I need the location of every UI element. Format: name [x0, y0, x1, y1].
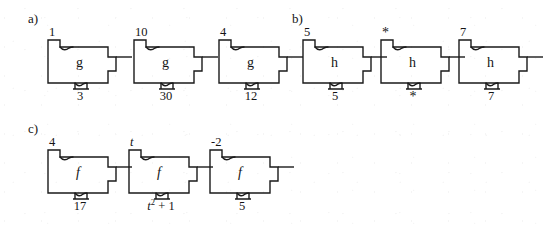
machine-input-value: 5	[304, 26, 310, 39]
machine-input-value: 10	[135, 26, 148, 39]
machine-input-value: 4	[49, 136, 55, 149]
machine-function-label: g	[162, 56, 169, 70]
machine-input-value: 7	[460, 26, 466, 39]
machine-output-value: t2 + 1	[147, 200, 174, 213]
machine-function-label: g	[247, 56, 254, 70]
machine-output-value: 30	[160, 90, 173, 103]
machine-function-label: g	[76, 56, 83, 70]
machine-output-value: 12	[245, 90, 258, 103]
machine-outline	[42, 26, 138, 102]
machine-input-value: -2	[211, 136, 221, 149]
machine-output-value: 5	[239, 200, 245, 213]
machine-output-value: 17	[74, 200, 87, 213]
machine-output-value: *	[410, 90, 417, 104]
machine-function-label: h	[487, 56, 494, 70]
function-machine-a1: 1g3	[42, 26, 138, 102]
machine-input-value: 4	[220, 26, 226, 39]
function-machine-a2: 10g30	[128, 26, 224, 102]
machine-input-value: 1	[49, 26, 55, 39]
machine-function-label: f	[157, 166, 161, 180]
part-label-a: a)	[28, 12, 38, 25]
machine-outline	[453, 26, 547, 102]
machine-function-label: h	[331, 56, 338, 70]
function-machine-a3: 4g12	[213, 26, 309, 102]
part-label-b: b)	[292, 12, 303, 25]
function-machine-b3: 7h7	[453, 26, 547, 102]
machine-input-value: *	[382, 26, 389, 40]
part-label-c: c)	[28, 122, 38, 135]
machine-function-label: f	[238, 166, 242, 180]
function-machine-c3: -2f5	[204, 136, 300, 212]
machine-outline	[213, 26, 309, 102]
machine-input-value: t	[130, 136, 133, 149]
machine-output-value: 5	[332, 90, 338, 103]
machine-output-value: 3	[77, 90, 83, 103]
machine-function-label: h	[409, 56, 416, 70]
machine-function-label: f	[76, 166, 80, 180]
machine-output-value: 7	[488, 90, 494, 103]
